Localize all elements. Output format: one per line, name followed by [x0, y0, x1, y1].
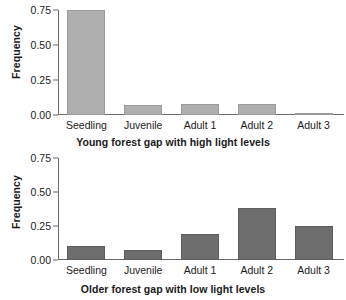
- chart-title-bottom: Older forest gap with low light levels: [0, 283, 346, 295]
- x-tick-label-bottom-2: Adult 1: [172, 264, 229, 276]
- y-tick-label-top-1: 0.25: [31, 74, 51, 86]
- x-tick-label-top-4: Adult 3: [285, 119, 342, 131]
- bar-bottom-adult-2[interactable]: [238, 208, 276, 260]
- bar-bottom-adult-1[interactable]: [181, 234, 219, 260]
- x-axis-tick-labels-top: Seedling Juvenile Adult 1 Adult 2 Adult …: [58, 119, 342, 131]
- x-tick-label-bottom-3: Adult 2: [228, 264, 285, 276]
- bar-slot: [58, 10, 115, 115]
- bar-slot: [285, 158, 342, 260]
- bar-slot: [115, 158, 172, 260]
- x-tick-label-bottom-1: Juvenile: [115, 264, 172, 276]
- y-axis-title-bottom: Frequency: [10, 160, 22, 244]
- x-tick-label-bottom-0: Seedling: [58, 264, 115, 276]
- bar-bottom-juvenile[interactable]: [124, 250, 162, 260]
- x-axis-tick-labels-bottom: Seedling Juvenile Adult 1 Adult 2 Adult …: [58, 264, 342, 276]
- bar-slot: [172, 158, 229, 260]
- bar-bottom-adult-3[interactable]: [295, 226, 333, 260]
- plot-area-bottom: 0.00 0.25 0.50 0.75: [58, 158, 342, 260]
- y-tick-label-top-2: 0.50: [31, 39, 51, 51]
- y-tick-label-bottom-2: 0.50: [31, 186, 51, 198]
- bar-top-adult-1[interactable]: [181, 104, 219, 115]
- bar-top-seedling[interactable]: [67, 10, 105, 115]
- figure: Frequency 0.00 0.25 0.50 0.75 Seedl: [0, 0, 346, 300]
- y-tick-label-bottom-0: 0.00: [31, 254, 51, 266]
- bar-slot: [228, 10, 285, 115]
- bar-top-adult-3[interactable]: [295, 113, 333, 115]
- x-tick-label-top-0: Seedling: [58, 119, 115, 131]
- bar-group-top: [58, 10, 342, 115]
- bar-slot: [228, 158, 285, 260]
- bar-top-adult-2[interactable]: [238, 104, 276, 115]
- plot-area-top: 0.00 0.25 0.50 0.75: [58, 10, 342, 115]
- bar-slot: [115, 10, 172, 115]
- bar-slot: [58, 158, 115, 260]
- bar-bottom-seedling[interactable]: [67, 246, 105, 260]
- x-tick-label-top-2: Adult 1: [172, 119, 229, 131]
- bar-top-juvenile[interactable]: [124, 105, 162, 115]
- y-tick-label-bottom-3: 0.75: [31, 152, 51, 164]
- bar-slot: [285, 10, 342, 115]
- y-tick-label-top-3: 0.75: [31, 4, 51, 16]
- bar-slot: [172, 10, 229, 115]
- y-tick-label-bottom-1: 0.25: [31, 220, 51, 232]
- y-axis-title-top: Frequency: [10, 10, 22, 94]
- x-tick-label-top-3: Adult 2: [228, 119, 285, 131]
- chart-title-top: Young forest gap with high light levels: [0, 136, 346, 148]
- x-tick-label-bottom-4: Adult 3: [285, 264, 342, 276]
- bar-group-bottom: [58, 158, 342, 260]
- y-tick-label-top-0: 0.00: [31, 109, 51, 121]
- x-tick-label-top-1: Juvenile: [115, 119, 172, 131]
- chart-panel-young-forest: Frequency 0.00 0.25 0.50 0.75 Seedl: [0, 0, 346, 150]
